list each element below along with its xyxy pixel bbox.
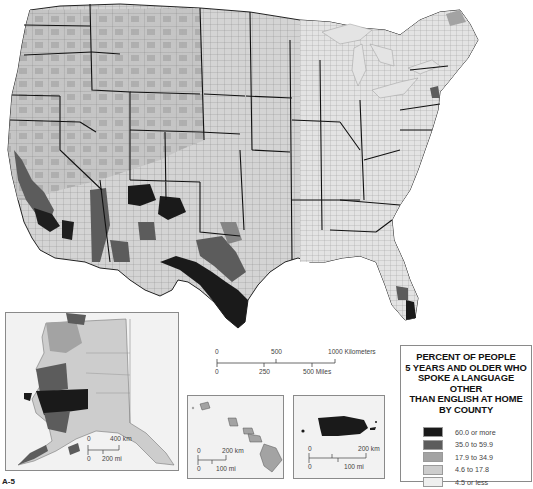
legend-swatch xyxy=(423,427,443,437)
hawaii-inset: 0 200 km 0 100 mi xyxy=(187,395,284,479)
legend-item-18-35: 17.9 to 34.9 xyxy=(423,451,496,464)
legend-label: 17.9 to 34.9 xyxy=(455,453,493,462)
alaska-scale-mi-200: 200 mi xyxy=(102,455,122,462)
legend-label: 4.6 to 17.8 xyxy=(455,465,489,474)
pr-scale-mi-0: 0 xyxy=(308,463,312,470)
hawaii-scale-km-200: 200 km xyxy=(222,447,244,454)
alaska-scale-km-400: 400 km xyxy=(110,435,132,442)
scale-mi-0: 0 xyxy=(215,368,219,375)
puerto-rico-inset: 0 200 km 0 100 mi xyxy=(293,395,385,479)
legend-swatch xyxy=(423,440,443,450)
legend: PERCENT OF PEOPLE 5 YEARS AND OLDER WHO … xyxy=(400,345,532,482)
scale-mi-250: 250 xyxy=(259,368,270,375)
figure-label: A-5 xyxy=(2,477,15,486)
legend-swatch xyxy=(423,452,443,462)
scale-mi-500: 500 Miles xyxy=(303,368,331,375)
legend-label: 4.5 or less xyxy=(455,478,488,487)
scale-km-1000: 1000 Kilometers xyxy=(328,348,376,355)
alaska-map xyxy=(6,313,178,470)
legend-swatch xyxy=(423,477,443,487)
pr-scale-km-0: 0 xyxy=(308,445,312,452)
legend-item-5-18: 4.6 to 17.8 xyxy=(423,464,496,477)
legend-title: PERCENT OF PEOPLE 5 YEARS AND OLDER WHO … xyxy=(401,352,531,416)
pr-scale-mi-100: 100 mi xyxy=(344,463,364,470)
legend-label: 35.0 to 59.9 xyxy=(455,440,493,449)
alaska-scale-mi-0: 0 xyxy=(87,455,91,462)
hawaii-scale-km-0: 0 xyxy=(197,447,201,454)
pr-scale-km-200: 200 km xyxy=(358,445,380,452)
legend-item-60-plus: 60.0 or more xyxy=(423,426,496,439)
legend-items: 60.0 or more 35.0 to 59.9 17.9 to 34.9 4… xyxy=(423,426,496,489)
hawaii-scale-mi-100: 100 mi xyxy=(216,465,236,472)
alaska-scale-km-0: 0 xyxy=(87,435,91,442)
legend-item-35-60: 35.0 to 59.9 xyxy=(423,439,496,452)
scale-km-0: 0 xyxy=(215,348,219,355)
legend-label: 60.0 or more xyxy=(455,428,496,437)
legend-swatch xyxy=(423,465,443,475)
legend-item-under-5: 4.5 or less xyxy=(423,476,496,489)
hawaii-scale-mi-0: 0 xyxy=(197,465,201,472)
scale-km-500: 500 xyxy=(271,348,282,355)
alaska-inset: 0 400 km 0 200 mi xyxy=(5,312,179,471)
